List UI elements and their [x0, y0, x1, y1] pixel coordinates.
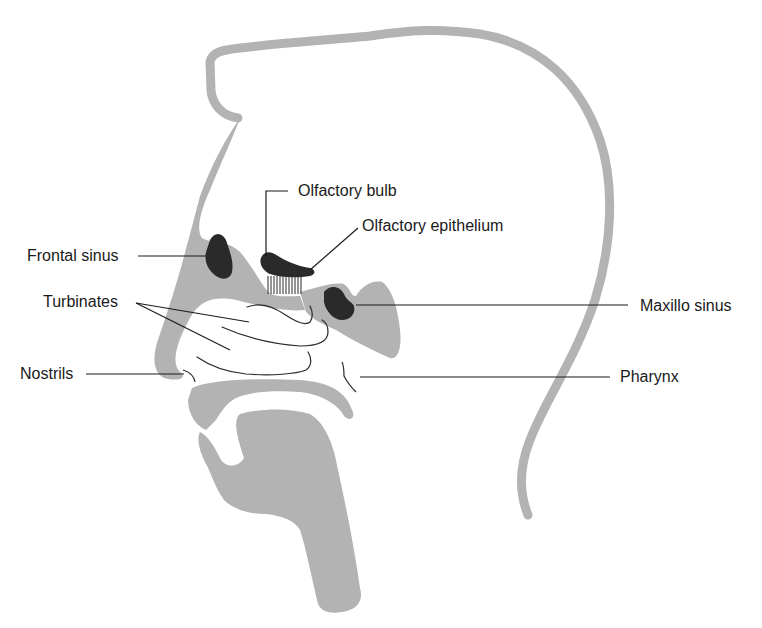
olfactory-bulb [260, 252, 314, 277]
nostril [183, 370, 195, 382]
label-olfactory-epithelium: Olfactory epithelium [362, 217, 503, 235]
label-maxillo-sinus: Maxillo sinus [640, 297, 732, 315]
label-nostrils: Nostrils [20, 365, 73, 383]
label-pharynx: Pharynx [620, 368, 679, 386]
turbinates [197, 305, 328, 375]
label-frontal-sinus: Frontal sinus [27, 247, 119, 265]
nasal-bone [154, 118, 305, 380]
olfactory-epithelium-cilia [268, 276, 301, 294]
lower-jaw [198, 410, 361, 613]
maxillo-bone [300, 282, 401, 359]
label-turbinates: Turbinates [43, 293, 118, 311]
pharynx-curve [342, 362, 356, 392]
label-olfactory-bulb: Olfactory bulb [298, 182, 397, 200]
